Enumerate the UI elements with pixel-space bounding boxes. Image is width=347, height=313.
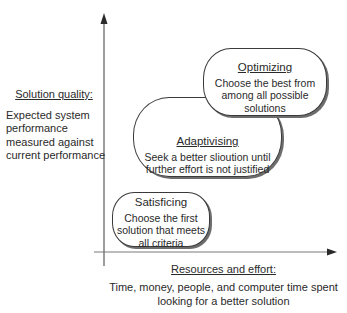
y-axis-title: Solution quality:: [2, 88, 106, 102]
x-axis-title: Resources and effort:: [100, 262, 347, 276]
y-axis-label: Solution quality: Expected system perfor…: [2, 88, 106, 163]
adaptivising-text: Seek a better slioution until further ef…: [144, 151, 270, 176]
y-axis-description: Expected system performance measured aga…: [2, 109, 106, 163]
optimizing-box: Optimizing Choose the best from among al…: [203, 48, 327, 116]
satisficing-text: Choose the first solution that meets all…: [117, 212, 205, 249]
x-axis-label: Resources and effort: Time, money, peopl…: [100, 262, 347, 308]
optimizing-title: Optimizing: [204, 61, 326, 74]
optimizing-text: Choose the best from among all possible …: [215, 77, 315, 114]
y-axis-arrow-icon: [101, 13, 108, 24]
satisficing-box: Satisficing Choose the first solution th…: [112, 192, 210, 247]
adaptivising-title: Adaptivising: [134, 135, 281, 148]
satisficing-title: Satisficing: [113, 196, 209, 209]
x-axis-description: Time, money, people, and computer time s…: [109, 281, 338, 307]
x-axis-arrow-icon: [327, 249, 337, 256]
